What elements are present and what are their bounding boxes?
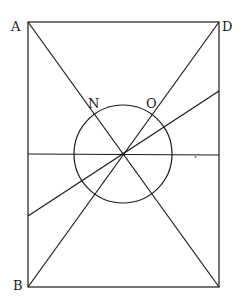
label-a: A	[10, 19, 21, 34]
stray-mark: ’	[194, 155, 197, 165]
label-d: D	[222, 19, 232, 34]
center-point	[121, 152, 124, 155]
label-n: N	[88, 96, 99, 111]
label-b: B	[13, 278, 23, 293]
label-o: O	[146, 96, 157, 111]
geometry-diagram: A D B N O ’	[0, 0, 246, 306]
